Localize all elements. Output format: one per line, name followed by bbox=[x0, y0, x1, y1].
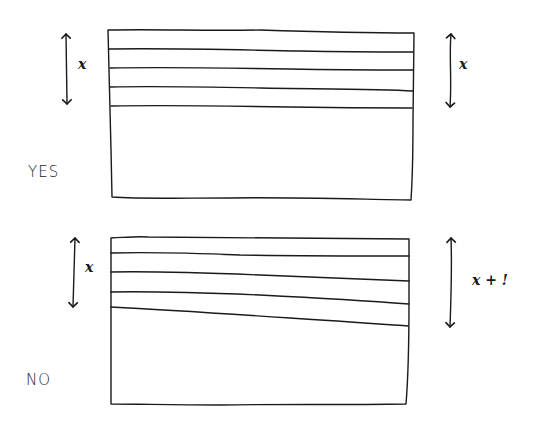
yes-layer-line-2 bbox=[110, 68, 413, 70]
yes-left-double-arrow bbox=[66, 34, 67, 104]
yes-layer-line-4 bbox=[111, 106, 412, 108]
yes-box-outline bbox=[108, 30, 414, 200]
yes-right-double-arrow bbox=[450, 34, 451, 107]
no-layer-line-4 bbox=[111, 307, 408, 326]
no-layer-line-3 bbox=[111, 292, 409, 304]
no-layer-line-2 bbox=[111, 272, 409, 281]
yes-diagram bbox=[66, 30, 451, 200]
yes-right-label: x bbox=[459, 56, 467, 72]
yes-verdict-label: YES bbox=[28, 163, 59, 181]
yes-left-label: x bbox=[78, 56, 86, 72]
no-left-label: x bbox=[85, 259, 93, 275]
no-right-double-arrow bbox=[450, 238, 451, 327]
yes-layer-line-3 bbox=[110, 87, 413, 91]
no-box-outline bbox=[111, 237, 409, 405]
no-left-double-arrow bbox=[73, 238, 75, 307]
no-layer-line-1 bbox=[111, 253, 409, 256]
yes-layer-line-1 bbox=[109, 49, 413, 52]
no-verdict-label: NO bbox=[26, 371, 51, 389]
no-diagram bbox=[73, 237, 451, 405]
no-right-label: x + ! bbox=[472, 272, 508, 288]
